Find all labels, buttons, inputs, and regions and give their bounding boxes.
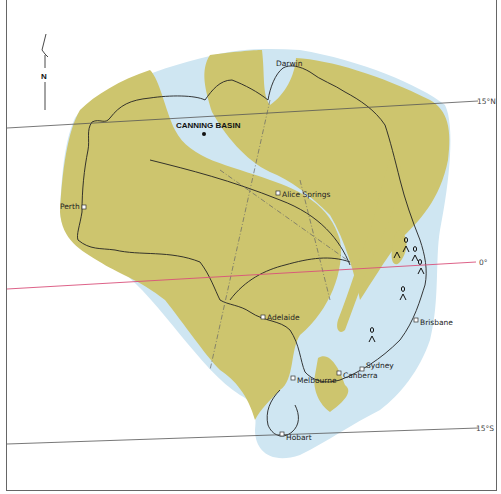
map-canvas: 15°N 0° 15°S N CANNING BASIN Darwin Alic… xyxy=(0,0,501,494)
city-label-canberra: Canberra xyxy=(343,371,378,380)
city-marker-hobart xyxy=(280,432,284,436)
city-label-adelaide: Adelaide xyxy=(267,313,300,322)
city-label-alice-springs: Alice Springs xyxy=(282,190,331,199)
canning-basin-dot xyxy=(202,132,206,136)
latitude-label-equator: 0° xyxy=(479,258,488,267)
latitude-label-15n: 15°N xyxy=(477,97,496,106)
city-label-perth: Perth xyxy=(60,202,80,211)
city-marker-canberra xyxy=(337,371,341,375)
city-marker-brisbane xyxy=(414,318,418,322)
city-label-sydney: Sydney xyxy=(366,361,394,370)
city-marker-perth xyxy=(82,205,86,209)
city-label-darwin: Darwin xyxy=(276,59,303,68)
city-label-brisbane: Brisbane xyxy=(420,318,453,327)
city-marker-alice-springs xyxy=(276,191,280,195)
city-marker-adelaide xyxy=(261,315,265,319)
latitude-label-15s: 15°S xyxy=(476,424,494,433)
canning-basin-label: CANNING BASIN xyxy=(176,121,241,130)
compass-label: N xyxy=(41,72,47,81)
city-label-melbourne: Melbourne xyxy=(297,376,337,385)
city-label-hobart: Hobart xyxy=(286,433,312,442)
city-marker-melbourne xyxy=(291,376,295,380)
latitude-line-15s xyxy=(7,428,478,444)
